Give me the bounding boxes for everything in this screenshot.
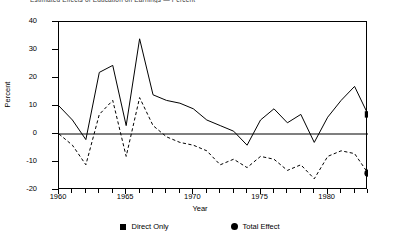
x-tick-minor xyxy=(98,189,99,193)
x-tick-minor xyxy=(165,189,166,193)
x-tick-minor xyxy=(219,189,220,193)
x-tick-minor xyxy=(85,189,86,193)
square-marker-icon xyxy=(120,224,126,230)
x-tick-label: 1965 xyxy=(105,192,145,201)
x-tick-minor xyxy=(367,189,368,193)
circle-marker-icon xyxy=(231,223,238,230)
y-tick-label: 10 xyxy=(9,101,37,109)
plot-area xyxy=(58,21,367,189)
x-tick-minor xyxy=(233,189,234,193)
y-tick-label: -10 xyxy=(9,157,37,165)
x-tick-minor xyxy=(300,189,301,193)
series-line-total-effect xyxy=(59,98,368,179)
legend-label: Total Effect xyxy=(243,222,280,231)
legend-item-direct-only: Direct Only xyxy=(120,222,168,231)
chart-figure: Estimated Effects of Education on Earnin… xyxy=(0,0,400,244)
chart-title: Estimated Effects of Education on Earnin… xyxy=(30,0,370,3)
x-tick-label: 1975 xyxy=(240,192,280,201)
legend-item-total-effect: Total Effect xyxy=(231,222,280,231)
x-axis-title: Year xyxy=(0,204,400,213)
y-tick-label: 0 xyxy=(9,129,37,137)
endpoint-circle-marker xyxy=(364,170,368,177)
x-tick-label: 1980 xyxy=(307,192,347,201)
y-tick-label: 30 xyxy=(9,45,37,53)
legend-label: Direct Only xyxy=(131,222,168,231)
x-tick-minor xyxy=(354,189,355,193)
x-tick-minor xyxy=(152,189,153,193)
endpoint-square-marker xyxy=(365,111,368,117)
y-tick-label: -20 xyxy=(9,185,37,193)
y-tick-label: 20 xyxy=(9,73,37,81)
x-tick-minor xyxy=(286,189,287,193)
y-tick-label: 40 xyxy=(9,17,37,25)
x-tick-label: 1960 xyxy=(38,192,78,201)
chart-legend: Direct Only Total Effect xyxy=(0,222,400,231)
x-tick-label: 1970 xyxy=(172,192,212,201)
series-line-direct-only xyxy=(59,39,368,145)
series-canvas xyxy=(59,22,368,190)
